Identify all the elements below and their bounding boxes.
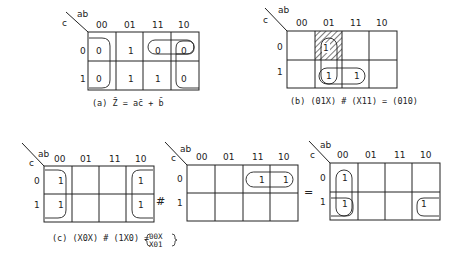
cell-value: 0 <box>181 74 187 84</box>
col-var-label: ab <box>278 5 290 15</box>
caption-c: (c) (X0X) # (1X0) = 00X X01 <box>52 232 177 249</box>
col-header: 00 <box>54 154 66 164</box>
col-var-label: ab <box>180 144 192 154</box>
cell-value: 1 <box>283 175 289 185</box>
cell-value: 0 <box>96 74 102 84</box>
kmap-grid <box>287 31 397 88</box>
col-header: 11 <box>109 154 120 164</box>
caption-b: (b) (01X) # (X11) = (010) <box>290 96 418 106</box>
cell-value: 1 <box>342 173 348 183</box>
col-header: 11 <box>394 150 405 160</box>
cell-value: 1 <box>155 74 161 84</box>
cell-value: 1 <box>58 176 64 186</box>
kmap-panel-c-map3: ab c 00 01 11 10 0 1 1 1 1 <box>309 140 440 220</box>
cell-value: 1 <box>259 175 265 185</box>
sharp-operator: # <box>156 195 165 208</box>
col-header: 01 <box>223 152 234 162</box>
row-header: 0 <box>277 42 283 52</box>
grouping-loop <box>176 41 199 88</box>
kmap-panel-c-map1: ab c 00 01 11 10 0 1 1 1 1 1 # <box>22 143 165 222</box>
caption-a: (a) Z̄ = ac̄ + b̄ <box>92 97 164 108</box>
kmap-grid <box>44 166 154 222</box>
col-var-label: ab <box>38 149 50 159</box>
col-header: 01 <box>80 154 91 164</box>
right-brace-icon <box>172 234 177 246</box>
row-var-label: c <box>263 15 268 25</box>
row-header: 1 <box>277 67 283 77</box>
cell-value: 1 <box>326 71 332 81</box>
col-header: 10 <box>278 152 290 162</box>
row-header: 0 <box>177 174 183 184</box>
row-header: 0 <box>320 173 326 183</box>
cell-value: 1 <box>323 43 329 53</box>
col-header: 11 <box>152 20 163 30</box>
cell-value: 1 <box>128 46 134 56</box>
cell-value: 1 <box>421 199 427 209</box>
col-header: 10 <box>178 20 190 30</box>
cell-value: 1 <box>128 74 134 84</box>
row-header: 0 <box>80 46 86 56</box>
equals-operator: = <box>304 186 313 199</box>
row-var-label: c <box>171 153 176 163</box>
col-header: 00 <box>337 150 349 160</box>
caption-c-text: (c) (X0X) # (1X0) = <box>52 233 149 243</box>
cell-value: 1 <box>138 176 144 186</box>
col-header: 11 <box>252 152 263 162</box>
result-bottom: X01 <box>149 240 163 249</box>
col-header: 01 <box>124 20 135 30</box>
cell-value: 1 <box>138 200 144 210</box>
row-header: 1 <box>80 74 86 84</box>
karnaugh-map-figure: ab c 00 01 11 10 0 1 0 1 0 0 0 1 1 0 (a)… <box>0 0 466 261</box>
row-var-label: c <box>29 158 34 168</box>
cell-value: 0 <box>155 46 161 56</box>
col-header: 10 <box>420 150 432 160</box>
col-header: 10 <box>135 154 147 164</box>
col-header: 01 <box>323 18 334 28</box>
cell-value: 1 <box>354 71 360 81</box>
kmap-panel-b: ab c 00 01 11 10 0 1 1 1 1 (b) (01X) # (… <box>263 5 418 106</box>
row-header: 1 <box>34 200 40 210</box>
kmap-grid <box>330 163 440 220</box>
col-header: 00 <box>296 18 308 28</box>
row-var-label: c <box>62 18 67 28</box>
cell-value: 0 <box>96 46 102 56</box>
col-var-label: ab <box>77 9 89 19</box>
col-header: 01 <box>365 150 376 160</box>
kmap-grid <box>187 165 298 221</box>
row-var-label: c <box>310 150 315 160</box>
col-header: 00 <box>96 20 108 30</box>
row-header: 1 <box>320 197 326 207</box>
kmap-panel-a: ab c 00 01 11 10 0 1 0 1 0 0 0 1 1 0 (a)… <box>62 9 199 108</box>
row-header: 1 <box>177 198 183 208</box>
col-header: 00 <box>196 152 208 162</box>
kmap-panel-c-map2: ab c 00 01 11 10 0 1 1 1 = <box>165 142 313 221</box>
col-header: 10 <box>376 18 388 28</box>
col-header: 11 <box>350 18 361 28</box>
col-var-label: ab <box>320 140 332 150</box>
cell-value: 1 <box>342 199 348 209</box>
cell-value: 1 <box>58 200 64 210</box>
row-header: 0 <box>34 176 40 186</box>
cell-value: 0 <box>181 46 187 56</box>
